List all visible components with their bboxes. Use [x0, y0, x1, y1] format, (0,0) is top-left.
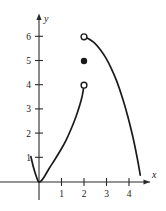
y-tick-label-5: 5 [26, 56, 31, 66]
y-tick-label-6: 6 [26, 32, 31, 42]
x-tick-label-2: 2 [82, 189, 87, 199]
x-tick-label-3: 3 [104, 189, 109, 199]
x-tick-label-1: 1 [59, 189, 64, 199]
endpoint-markers [81, 34, 87, 88]
plot-canvas: y x 6 5 4 3 2 1 1 2 3 4 [0, 0, 166, 211]
y-tick-label-2: 2 [26, 129, 31, 139]
y-tick-label-4: 4 [26, 80, 31, 90]
open-circle-lower [81, 82, 87, 88]
x-axis-label: x [151, 169, 157, 180]
y-axis-label: y [43, 13, 49, 24]
y-tick-label-3: 3 [26, 104, 31, 114]
closed-dot [81, 58, 87, 64]
axes-group [0, 14, 150, 201]
graph-figure: y x 6 5 4 3 2 1 1 2 3 4 [0, 0, 166, 211]
x-tick-label-4: 4 [127, 189, 132, 199]
curve-right-branch [84, 37, 140, 175]
open-circle-upper [81, 34, 87, 40]
x-axis-arrow [144, 179, 151, 184]
y-axis-arrow [36, 14, 41, 21]
